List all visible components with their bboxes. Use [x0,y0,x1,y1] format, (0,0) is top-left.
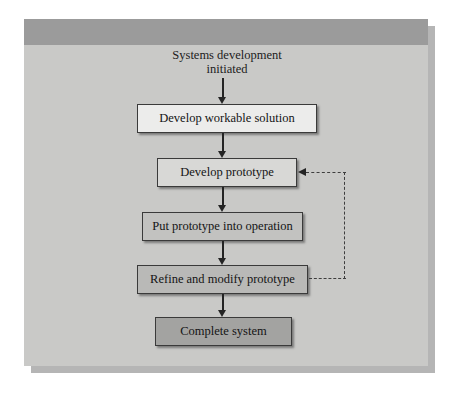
node-develop-workable-solution[interactable]: Develop workable solution [137,104,317,133]
node-label: Put prototype into operation [152,219,293,234]
node-label: Refine and modify prototype [150,272,295,287]
feedback-loop-arrowhead [298,168,306,176]
arrowhead-node2-to-node3 [218,205,226,212]
feedback-loop-top-segment [306,172,346,173]
panel-header-band [24,19,428,45]
arrowhead-node1-to-node2 [218,151,226,158]
node-put-prototype-into-operation[interactable]: Put prototype into operation [142,212,303,241]
node-refine-and-modify-prototype[interactable]: Refine and modify prototype [137,265,308,294]
arrowhead-node4-to-node5 [218,310,226,317]
node-label: Develop prototype [180,165,273,180]
flowchart-screenshot: Systems development initiated Develop wo… [0,0,454,395]
node-complete-system[interactable]: Complete system [155,317,292,346]
node-develop-prototype[interactable]: Develop prototype [157,158,297,187]
connector-node1-to-node2 [222,133,224,153]
start-label: Systems development initiated [113,48,341,76]
arrowhead-node3-to-node4 [218,258,226,265]
node-label: Develop workable solution [159,111,294,126]
feedback-loop-bottom-segment [309,278,346,279]
connector-node2-to-node3 [222,187,224,207]
feedback-loop-vertical-segment [344,172,345,279]
connector-start-to-node1 [222,78,224,99]
arrowhead-start-to-node1 [218,97,226,104]
node-label: Complete system [180,324,266,339]
